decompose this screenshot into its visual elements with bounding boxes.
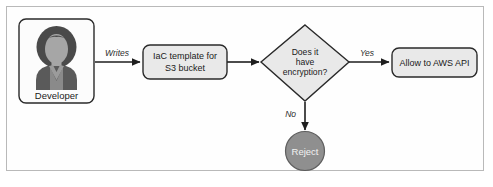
diagram-canvas: Writes Yes No xyxy=(0,0,493,187)
node-reject[interactable]: Reject xyxy=(286,132,325,171)
encryption-decision-label-line1: Does it xyxy=(292,47,319,57)
encryption-decision-label-line2: have xyxy=(296,57,315,67)
developer-label: Developer xyxy=(35,90,78,101)
node-allow-aws-api[interactable]: Allow to AWS API xyxy=(392,48,477,77)
edge-decision-to-allow: Yes xyxy=(349,48,389,62)
edge-label-yes: Yes xyxy=(360,48,375,58)
node-iac-template[interactable]: IaC template for S3 bucket xyxy=(143,45,227,79)
person-avatar-icon xyxy=(36,26,77,90)
allow-aws-api-label: Allow to AWS API xyxy=(399,58,469,68)
edge-label-no: No xyxy=(285,109,296,119)
edge-label-writes: Writes xyxy=(105,48,130,58)
edge-developer-to-iac: Writes xyxy=(95,48,140,62)
iac-template-label-line1: IaC template for xyxy=(153,51,217,61)
node-developer[interactable]: Developer xyxy=(19,19,94,103)
node-encryption-decision[interactable]: Does it have encryption? xyxy=(261,25,349,101)
edge-decision-to-reject: No xyxy=(285,102,305,130)
iac-template-label-line2: S3 bucket xyxy=(165,63,206,73)
flowchart: Writes Yes No xyxy=(0,0,493,187)
encryption-decision-label-line3: encryption? xyxy=(283,67,328,77)
reject-label: Reject xyxy=(292,146,319,157)
